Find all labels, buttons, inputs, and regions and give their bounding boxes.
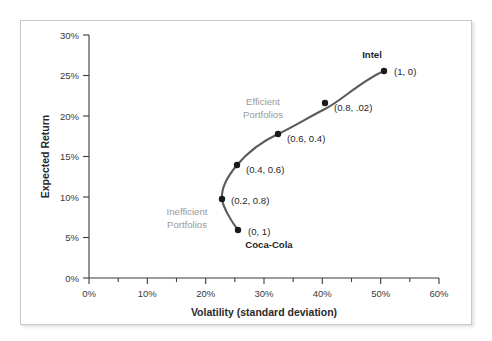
efficient-frontier-curve — [222, 71, 384, 230]
point-label-0.2-0.8: (0.2, 0.8) — [231, 195, 269, 206]
x-axis-title: Volatility (standard deviation) — [191, 306, 337, 318]
chart-figure-frame: 30% 25% 20% 15% 10% 5% 0% 0% 10% 20% 30%… — [20, 20, 472, 325]
point-label-coca-cola-weights: (0, 1) — [248, 226, 270, 237]
y-tick-label-20: 20% — [60, 111, 80, 122]
data-point-0.2-0.8[interactable] — [219, 196, 225, 202]
annotation-efficient-line1: Efficient — [246, 96, 280, 107]
efficient-frontier-chart: 30% 25% 20% 15% 10% 5% 0% 0% 10% 20% 30%… — [21, 21, 473, 326]
x-tick-label-10: 10% — [138, 288, 158, 299]
x-axis-ticks — [89, 278, 439, 284]
y-tick-label-30: 30% — [60, 30, 80, 41]
annotation-efficient-line2: Portfolios — [243, 109, 283, 120]
data-point-0.4-0.6[interactable] — [234, 162, 240, 168]
point-label-0.4-0.6: (0.4, 0.6) — [246, 164, 284, 175]
data-point-coca-cola[interactable] — [235, 227, 241, 233]
annotation-inefficient-line1: Inefficient — [167, 206, 208, 217]
point-label-intel-name: Intel — [362, 49, 382, 60]
x-tick-label-50: 50% — [371, 288, 391, 299]
data-point-0.6-0.4[interactable] — [275, 131, 281, 137]
y-tick-label-10: 10% — [60, 192, 80, 203]
y-axis-ticks — [83, 35, 89, 278]
point-label-coca-cola-name: Coca-Cola — [245, 239, 293, 250]
point-label-intel-weights: (1, 0) — [394, 66, 416, 77]
y-tick-label-25: 25% — [60, 70, 80, 81]
annotation-inefficient-line2: Portfolios — [167, 219, 207, 230]
point-label-0.8-0.02: (0.8, .02) — [334, 102, 372, 113]
data-point-0.8-0.02[interactable] — [322, 100, 328, 106]
x-tick-label-60: 60% — [429, 288, 449, 299]
x-tick-label-30: 30% — [254, 288, 274, 299]
data-point-intel[interactable] — [381, 68, 387, 74]
x-tick-label-40: 40% — [313, 288, 333, 299]
y-tick-label-15: 15% — [60, 151, 80, 162]
y-tick-label-5: 5% — [65, 232, 79, 243]
x-tick-label-0: 0% — [82, 288, 96, 299]
point-label-0.6-0.4: (0.6, 0.4) — [287, 133, 325, 144]
x-tick-label-20: 20% — [196, 288, 216, 299]
y-tick-label-0: 0% — [65, 273, 79, 284]
y-axis-title: Expected Return — [39, 115, 51, 198]
